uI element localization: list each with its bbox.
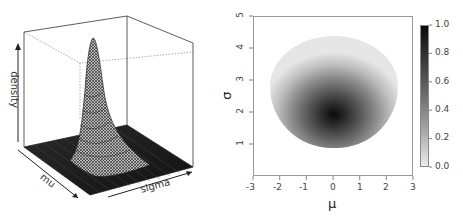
- colorbar-ticks: [232, 0, 463, 219]
- colorbar-tick: 0.4: [435, 104, 449, 114]
- colorbar-tick: 0.8: [435, 47, 449, 57]
- z-axis-label: density: [9, 71, 20, 108]
- perspective-plot: density mu sigma: [0, 0, 232, 219]
- colorbar-tick: 0.0: [435, 161, 449, 171]
- colorbar-tick: 1.0: [435, 19, 449, 29]
- perspective-surface: [0, 0, 232, 219]
- colorbar-tick: 0.2: [435, 132, 449, 142]
- colorbar-tick: 0.6: [435, 76, 449, 86]
- heatmap-plot: -3 -2 -1 0 1 2 3 5 4 3 2 1 μ σ 1.0 0.8 0…: [232, 0, 463, 219]
